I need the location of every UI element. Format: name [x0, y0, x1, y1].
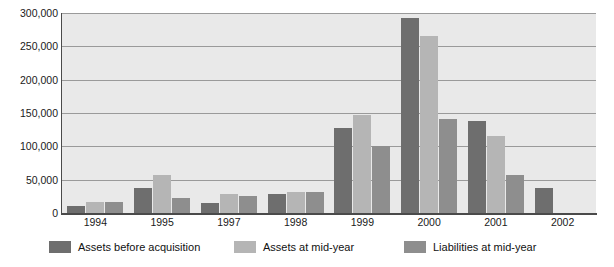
- x-tick-label: 1998: [262, 216, 329, 228]
- bar[interactable]: [334, 128, 352, 213]
- bar-group-1994: [67, 13, 123, 213]
- legend-label: Liabilities at mid-year: [433, 241, 536, 253]
- bar[interactable]: [506, 175, 524, 213]
- bar[interactable]: [268, 194, 286, 213]
- x-axis-line: [61, 213, 597, 215]
- bar[interactable]: [172, 198, 190, 213]
- bar[interactable]: [153, 175, 171, 213]
- legend-label: Assets at mid-year: [263, 241, 354, 253]
- bar[interactable]: [306, 192, 324, 213]
- y-tick-label: 50,000: [2, 175, 58, 185]
- bar-group-1995: [134, 13, 190, 213]
- y-tick-label: 150,000: [2, 108, 58, 118]
- bar[interactable]: [420, 36, 438, 213]
- bar-group-1997: [201, 13, 257, 213]
- y-tick-label: 0: [2, 208, 58, 218]
- bar-group-1999: [334, 13, 390, 213]
- bar-chart: 050,000100,000150,000200,000250,000300,0…: [0, 0, 614, 267]
- y-axis-tick-labels: 050,000100,000150,000200,000250,000300,0…: [0, 13, 58, 214]
- y-tick-label: 250,000: [2, 41, 58, 51]
- bar[interactable]: [67, 206, 85, 213]
- bar[interactable]: [105, 202, 123, 213]
- x-tick-label: 1999: [329, 216, 396, 228]
- bar[interactable]: [220, 194, 238, 213]
- bar[interactable]: [439, 119, 457, 213]
- bar[interactable]: [401, 18, 419, 213]
- y-tick-label: 200,000: [2, 75, 58, 85]
- legend-label: Assets before acquisition: [78, 241, 200, 253]
- bar-group-2001: [468, 13, 524, 213]
- bar[interactable]: [239, 196, 257, 213]
- bar-group-1998: [268, 13, 324, 213]
- bar[interactable]: [287, 192, 305, 213]
- bar-groups: [62, 13, 596, 213]
- bar[interactable]: [487, 136, 505, 213]
- x-axis-tick-labels: 19941995199719981999200020012002: [62, 216, 596, 232]
- x-tick-label: 2001: [463, 216, 530, 228]
- x-tick-label: 2002: [529, 216, 596, 228]
- x-tick-label: 2000: [396, 216, 463, 228]
- y-tick-label: 300,000: [2, 8, 58, 18]
- bar-group-2002: [535, 13, 591, 213]
- bar-group-2000: [401, 13, 457, 213]
- x-tick-label: 1995: [129, 216, 196, 228]
- bar[interactable]: [468, 121, 486, 213]
- bar[interactable]: [353, 115, 371, 213]
- bar[interactable]: [201, 203, 219, 213]
- bar[interactable]: [86, 202, 104, 213]
- bar[interactable]: [372, 146, 390, 213]
- x-tick-label: 1997: [196, 216, 263, 228]
- legend-swatch-icon: [404, 241, 426, 253]
- y-tick-label: 100,000: [2, 141, 58, 151]
- legend-swatch-icon: [49, 241, 71, 253]
- legend-item[interactable]: Liabilities at mid-year: [404, 240, 536, 254]
- legend-item[interactable]: Assets before acquisition: [49, 240, 200, 254]
- x-tick-label: 1994: [62, 216, 129, 228]
- bar[interactable]: [134, 188, 152, 213]
- legend-swatch-icon: [234, 241, 256, 253]
- legend-item[interactable]: Assets at mid-year: [234, 240, 354, 254]
- bar[interactable]: [535, 188, 553, 213]
